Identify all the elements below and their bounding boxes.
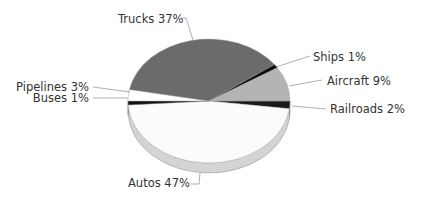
slice-label-aircraft: Aircraft 9%: [327, 74, 391, 88]
pie-chart: Railroads 2%Autos 47%Buses 1%Pipelines 3…: [0, 0, 421, 197]
slice-label-ships: Ships 1%: [313, 50, 366, 64]
slice-label-pipelines: Pipelines 3%: [16, 80, 89, 94]
leader-line-aircraft: [289, 80, 322, 86]
leader-line-pipelines: [93, 87, 130, 92]
slice-label-trucks: Trucks 37%: [117, 12, 184, 26]
pie-slices: [128, 39, 290, 163]
slice-label-autos: Autos 47%: [128, 176, 190, 190]
slice-label-railroads: Railroads 2%: [330, 102, 405, 116]
leader-line-autos: [191, 173, 200, 184]
leader-line-railroads: [292, 106, 326, 109]
leader-line-ships: [276, 56, 310, 67]
